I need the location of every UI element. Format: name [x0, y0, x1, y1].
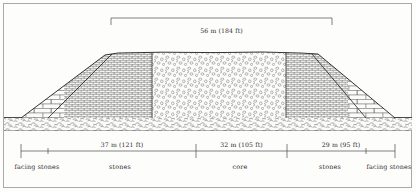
legend-label-right-facing: facing stones	[367, 163, 412, 171]
mound-body	[18, 48, 400, 120]
bottom-dimension-label-0: 37 m (121 ft)	[101, 141, 144, 148]
legend-label-left-stones: stones	[109, 163, 131, 171]
top-dimension-label: 56 m (184 ft)	[200, 27, 243, 34]
legend-row: facing stones stones core stones facing …	[15, 163, 412, 171]
figure-container: 56 m (184 ft) 37 m (121 ft) 32 m (105 ft…	[0, 0, 416, 192]
zone-core	[152, 48, 286, 120]
zone-right-facing-stones	[348, 48, 400, 120]
top-dimension: 56 m (184 ft)	[111, 18, 332, 34]
zone-right-stones	[286, 48, 348, 120]
bottom-dimension-label-1: 32 m (105 ft)	[220, 141, 263, 148]
bottom-dimension-line: 37 m (121 ft) 32 m (105 ft) 29 m (95 ft)	[21, 141, 395, 158]
legend-label-left-facing: facing stones	[15, 163, 60, 171]
legend-label-right-stones: stones	[319, 163, 341, 171]
ground-layer	[4, 117, 412, 131]
zone-left-stones	[64, 48, 152, 120]
bottom-dimension-label-2: 29 m (95 ft)	[322, 141, 361, 148]
legend-label-core: core	[233, 163, 248, 171]
cross-section-drawing: 56 m (184 ft) 37 m (121 ft) 32 m (105 ft…	[0, 0, 416, 192]
